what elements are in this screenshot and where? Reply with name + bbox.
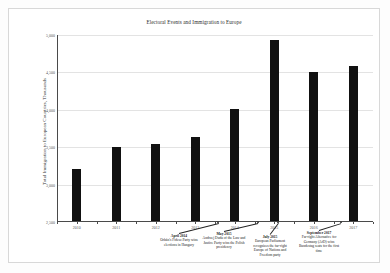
x-axis-minor-tick [373, 222, 374, 224]
y-axis-tick-label: 3,500 [46, 145, 55, 150]
annotation-body: Andrzej Duda of the Law and Justice Part… [202, 236, 246, 249]
annotation-september-2017: September 2017Far-right Alternative for … [297, 231, 341, 253]
x-axis-tick [77, 222, 78, 224]
y-axis-tick-label: 5,000 [46, 33, 55, 38]
x-axis-tick [274, 222, 275, 224]
x-axis-tick-label: 2010 [66, 225, 88, 230]
x-axis-tick [314, 222, 315, 224]
annotation-arrow-head [217, 221, 219, 223]
gridline [57, 185, 373, 186]
gridline [57, 147, 373, 148]
annotation-body: Far-right Alternative for Germany (AfD) … [297, 235, 341, 253]
annotation-arrow-head [340, 221, 342, 223]
figure-frame: Electoral Events and Immigration to Euro… [8, 8, 380, 263]
x-axis-minor-tick [136, 222, 137, 224]
bar [191, 137, 200, 222]
annotation-may-2015: May 2015Andrzej Duda of the Law and Just… [202, 232, 246, 250]
y-axis-tick-label: 4,000 [46, 107, 55, 112]
x-axis-tick [235, 222, 236, 224]
annotation-arrow-head [277, 221, 279, 223]
bar [112, 147, 121, 222]
y-axis-tick-label: 3,000 [46, 182, 55, 187]
y-axis-tick-label: 2,500 [46, 220, 55, 225]
bar [349, 66, 358, 222]
annotation-april-2014: April 2014Orbán's Fidesz Party wins elec… [157, 234, 201, 247]
x-axis-tick-label: 2012 [145, 225, 167, 230]
bar [309, 72, 318, 222]
annotation-arrow-head [257, 221, 259, 223]
annotation-body: Orbán's Fidesz Party wins elections in H… [157, 238, 201, 247]
annotation-body: European Parliament recognizes the far-r… [248, 239, 292, 257]
x-axis-minor-tick [294, 222, 295, 224]
y-axis-title-container: Total Immigration to European Countries,… [31, 35, 32, 222]
x-axis-tick [195, 222, 196, 224]
bar [270, 40, 279, 222]
y-axis-line [57, 35, 58, 222]
x-axis-minor-tick [334, 222, 335, 224]
y-axis-tick-label: 4,500 [46, 70, 55, 75]
annotation-july-2015: July 2015European Parliament recognizes … [248, 235, 292, 257]
gridline [57, 110, 373, 111]
x-axis-tick [353, 222, 354, 224]
x-axis-minor-tick [176, 222, 177, 224]
x-axis-tick [156, 222, 157, 224]
chart-page: Electoral Events and Immigration to Euro… [0, 0, 390, 273]
gridline [57, 35, 373, 36]
x-axis-tick-label: 2011 [105, 225, 127, 230]
x-axis-tick [116, 222, 117, 224]
bar [72, 169, 81, 222]
plot-area: 20102011201220132014201520162017 [57, 35, 373, 222]
x-axis-minor-tick [57, 222, 58, 224]
x-axis-minor-tick [97, 222, 98, 224]
x-axis-line [57, 221, 373, 222]
chart-title: Electoral Events and Immigration to Euro… [9, 19, 379, 25]
bar [230, 109, 239, 222]
gridline [57, 72, 373, 73]
bar [151, 144, 160, 222]
x-axis-tick-label: 2017 [342, 225, 364, 230]
y-axis-tick-labels: 2,5003,0003,5004,0004,5005,000 [35, 35, 55, 222]
